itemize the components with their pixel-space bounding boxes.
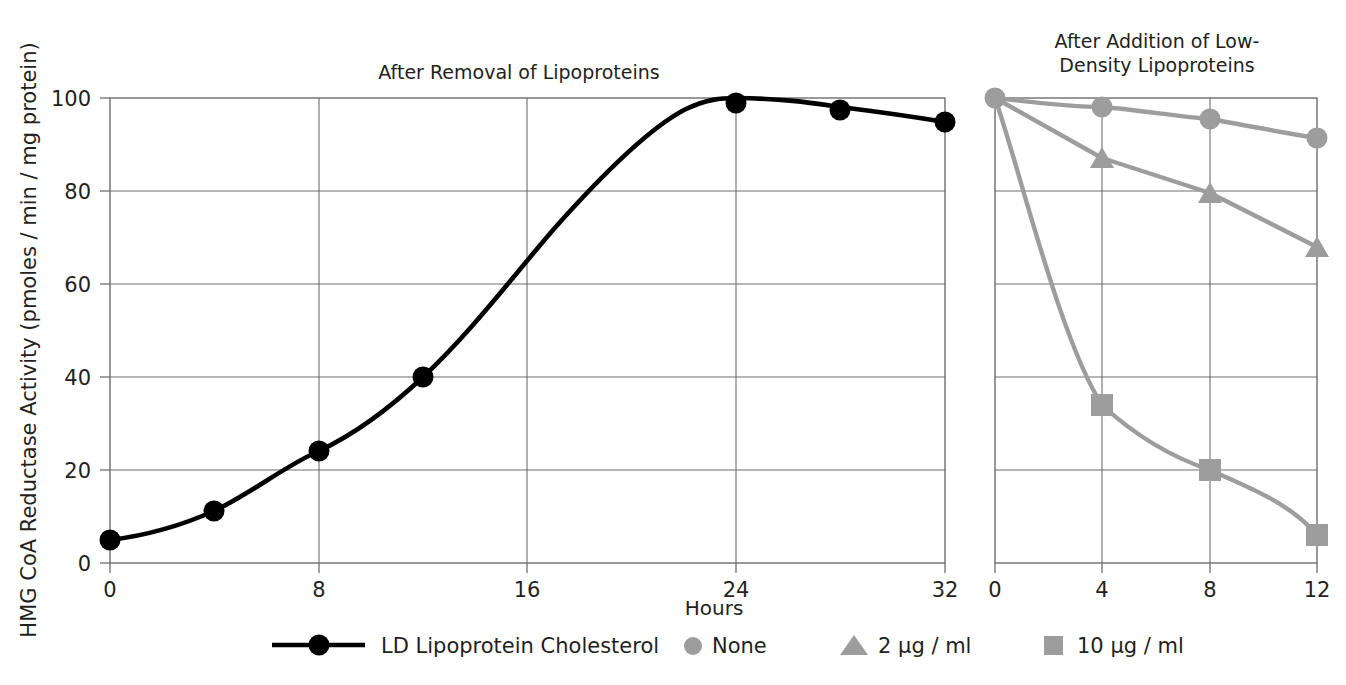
- legend: LD Lipoprotein Cholesterol None 2 µg / m…: [272, 634, 1184, 658]
- left-x-tick-32: 32: [932, 578, 959, 602]
- data-point: [204, 501, 225, 522]
- data-point: [830, 100, 851, 121]
- left-panel: After Removal of Lipoproteins: [51, 61, 958, 602]
- y-tick-100: 100: [51, 87, 91, 111]
- legend-item-none[interactable]: None: [684, 634, 767, 658]
- square-marker-icon: [1044, 636, 1063, 655]
- chart-svg: HMG CoA Reductase Activity (pmoles / min…: [0, 0, 1346, 685]
- y-tick-40: 40: [64, 366, 91, 390]
- y-tick-0: 0: [78, 552, 91, 576]
- left-x-axis-tick-labels: 0 8 16 24 32: [103, 578, 958, 602]
- data-point: [1092, 97, 1113, 118]
- series-2ug-line: [995, 98, 1317, 247]
- data-point: [309, 441, 330, 462]
- right-x-tick-12: 12: [1304, 578, 1331, 602]
- data-point: [1199, 459, 1221, 481]
- legend-item-10ug-per-ml[interactable]: 10 µg / ml: [1044, 634, 1184, 658]
- left-panel-title: After Removal of Lipoproteins: [378, 61, 659, 83]
- data-point: [1306, 524, 1328, 546]
- right-x-tick-8: 8: [1203, 578, 1216, 602]
- data-point: [100, 530, 121, 551]
- legend-item-ld-lipoprotein-cholesterol[interactable]: LD Lipoprotein Cholesterol: [272, 634, 659, 658]
- y-tick-60: 60: [64, 273, 91, 297]
- right-panel-title-line1: After Addition of Low-: [1055, 30, 1260, 52]
- data-point: [726, 93, 747, 114]
- right-x-axis-tick-labels: 0 4 8 12: [988, 578, 1330, 602]
- left-x-tick-0: 0: [103, 578, 116, 602]
- data-point: [1305, 236, 1329, 257]
- left-panel-x-tickmarks: [110, 563, 945, 573]
- right-x-tick-4: 4: [1095, 578, 1108, 602]
- y-tick-80: 80: [64, 180, 91, 204]
- data-point: [935, 112, 956, 133]
- series-none-markers: [985, 88, 1328, 149]
- data-point: [1307, 128, 1328, 149]
- right-panel-x-tickmarks: [995, 563, 1317, 573]
- right-x-tick-0: 0: [988, 578, 1001, 602]
- left-x-tick-8: 8: [312, 578, 325, 602]
- left-panel-gridlines: [110, 98, 945, 563]
- data-point: [413, 367, 434, 388]
- right-panel-gridlines: [995, 98, 1317, 563]
- legend-label: 10 µg / ml: [1077, 634, 1184, 658]
- y-axis-label: HMG CoA Reductase Activity (pmoles / min…: [17, 42, 41, 637]
- legend-label: LD Lipoprotein Cholesterol: [381, 634, 659, 658]
- data-point: [1200, 109, 1221, 130]
- data-point: [1090, 147, 1114, 168]
- left-panel-y-tickmarks: [100, 98, 110, 563]
- right-panel: After Addition of Low- Density Lipoprote…: [985, 30, 1331, 602]
- triangle-marker-icon: [840, 635, 868, 655]
- legend-label: 2 µg / ml: [878, 634, 971, 658]
- circle-marker-icon: [684, 637, 702, 655]
- circle-marker-icon: [309, 635, 330, 656]
- figure-container: HMG CoA Reductase Activity (pmoles / min…: [0, 0, 1346, 685]
- right-panel-frame: [995, 98, 1317, 563]
- series-none-line: [995, 98, 1317, 138]
- legend-label: None: [712, 634, 767, 658]
- left-x-tick-16: 16: [514, 578, 541, 602]
- data-point: [1091, 394, 1113, 416]
- legend-item-2ug-per-ml[interactable]: 2 µg / ml: [840, 634, 971, 658]
- y-tick-20: 20: [64, 459, 91, 483]
- x-axis-label: Hours: [685, 596, 744, 620]
- y-axis-tick-labels: 0 20 40 60 80 100: [51, 87, 91, 576]
- right-panel-title-line2: Density Lipoproteins: [1059, 54, 1254, 76]
